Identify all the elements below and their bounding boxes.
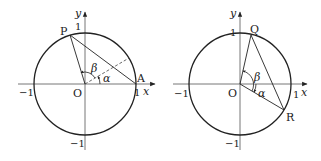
alpha-arc — [254, 84, 256, 92]
beta-label: β — [90, 62, 97, 75]
x-axis-label: x — [301, 86, 308, 99]
x-tick-1: 1 — [134, 87, 140, 98]
segment-oq — [240, 35, 251, 84]
x-axis-label: x — [143, 85, 150, 98]
diagram-stage: y 1 P A O 1 x −1 −1 β α y 1 Q R O 1 x −1… — [0, 0, 321, 161]
point-a-label: A — [136, 72, 146, 85]
figure-left: y 1 P A O 1 x −1 −1 β α — [18, 7, 155, 150]
beta-label: β — [253, 71, 260, 84]
y-tick-neg1: −1 — [70, 138, 85, 149]
alpha-label: α — [258, 87, 266, 100]
alpha-label: α — [103, 72, 111, 85]
y-tick-1: 1 — [75, 21, 81, 32]
origin-label: O — [228, 87, 237, 100]
beta-arc — [243, 71, 254, 91]
x-tick-neg1: −1 — [19, 87, 34, 98]
y-axis-label: y — [74, 7, 82, 20]
origin-label: O — [73, 87, 82, 100]
point-r-label: R — [286, 111, 295, 124]
figure-right: y 1 Q R O 1 x −1 −1 β α — [173, 7, 308, 150]
y-tick-neg1: −1 — [225, 138, 240, 149]
x-tick-1: 1 — [293, 89, 299, 100]
segment-op — [70, 35, 85, 84]
y-axis-label: y — [229, 7, 237, 20]
point-q-label: Q — [250, 23, 259, 36]
point-p-label: P — [60, 25, 68, 38]
alpha-arc — [98, 77, 100, 85]
y-tick-1: 1 — [230, 27, 236, 38]
x-tick-neg1: −1 — [174, 88, 189, 99]
